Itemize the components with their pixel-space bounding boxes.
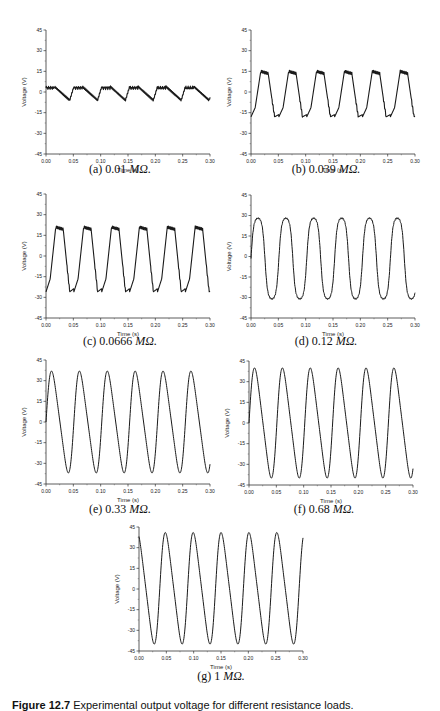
x-tick-label: 0.00 <box>134 655 144 661</box>
axes <box>139 527 303 651</box>
y-axis-title: Voltage (V) <box>114 574 120 604</box>
y-tick-label: -15 <box>128 606 135 612</box>
x-tick-label: 0.20 <box>243 655 253 661</box>
x-tick-label: 0.05 <box>161 655 171 661</box>
figure-caption: Figure 12.7 Experimental output voltage … <box>12 699 354 711</box>
x-tick-label: 0.30 <box>298 655 308 661</box>
figure-label: Figure 12.7 <box>12 699 70 711</box>
voltage-waveform <box>139 533 303 645</box>
y-tick-label: 30 <box>129 544 135 550</box>
x-tick-label: 0.25 <box>271 655 281 661</box>
caption-unit: MΩ. <box>223 669 245 683</box>
y-tick-label: -45 <box>128 648 135 654</box>
x-tick-label: 0.15 <box>216 655 226 661</box>
y-tick-label: 15 <box>129 565 135 571</box>
caption-text: (g) 1 <box>197 669 223 683</box>
subfigure-caption-g: (g) 1 MΩ. <box>121 669 321 684</box>
y-tick-label: -30 <box>128 627 135 633</box>
figure-caption-text: Experimental output voltage for differen… <box>73 699 353 711</box>
y-tick-label: 0 <box>132 586 135 592</box>
y-tick-label: 45 <box>129 524 135 530</box>
x-tick-label: 0.10 <box>189 655 199 661</box>
